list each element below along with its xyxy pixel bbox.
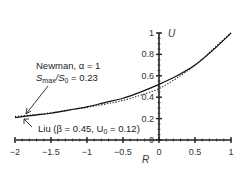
- y-tick-label: 0.2: [141, 114, 154, 124]
- newman-arrow: [26, 86, 48, 114]
- x-tick-label: −2: [10, 147, 20, 157]
- liu-arrow: [24, 119, 32, 127]
- x-tick-label: 0.5: [189, 147, 202, 157]
- x-tick-label: −0.5: [114, 147, 132, 157]
- x-tick-label: 1: [228, 147, 233, 157]
- x-tick-label: 0: [156, 147, 161, 157]
- x-tick-label: −1.5: [42, 147, 60, 157]
- y-tick-label: 1: [149, 28, 154, 38]
- y-axis-minor-ticks: [158, 33, 161, 140]
- y-axis-label: U: [168, 28, 176, 39]
- liu-annotation: Liu (β = 0.45, U0 = 0.12): [38, 123, 140, 135]
- liu-curve: [15, 33, 231, 116]
- newman-annotation-line2: Smax/S0 = 0.23: [36, 72, 98, 84]
- x-axis-label: R: [142, 154, 149, 165]
- newman-annotation-line1: Newman, α = 1: [36, 60, 100, 71]
- x-tick-label: −1: [82, 147, 92, 157]
- y-tick-label: 0.8: [141, 49, 154, 59]
- y-tick-label: 0.4: [141, 92, 154, 102]
- newman-curve: [15, 33, 231, 118]
- y-tick-label: 0.6: [141, 71, 154, 81]
- chart: −2−1.5−1−0.500.51 00.20.40.60.81 U R New…: [0, 0, 248, 174]
